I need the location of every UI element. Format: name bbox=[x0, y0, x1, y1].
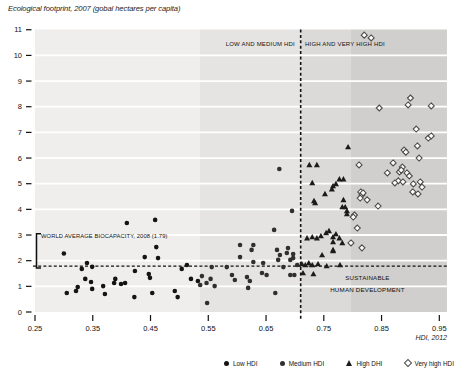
point-medium-hdi bbox=[260, 271, 265, 276]
point-medium-hdi bbox=[275, 248, 280, 253]
triangle-icon bbox=[346, 360, 352, 366]
point-medium-hdi bbox=[248, 279, 253, 284]
point-low-hdi bbox=[90, 265, 95, 270]
point-low-hdi bbox=[132, 295, 137, 300]
point-medium-hdi bbox=[273, 291, 278, 296]
x-tick-label: 0.65 bbox=[259, 324, 274, 333]
point-low-hdi bbox=[189, 277, 194, 282]
point-medium-hdi bbox=[238, 243, 243, 248]
point-low-hdi bbox=[146, 272, 151, 277]
point-low-hdi bbox=[175, 295, 180, 300]
y-tick-label: 3 bbox=[18, 231, 22, 240]
high-hdi-band bbox=[301, 30, 350, 313]
point-medium-hdi bbox=[212, 284, 217, 289]
point-medium-hdi bbox=[291, 256, 296, 261]
region-label-high-very-high: HIGH AND VERY HIGH HDI bbox=[305, 41, 385, 47]
sustainable-line2: HUMAN DEVELOPMENT bbox=[330, 286, 405, 293]
x-tick-label: 0.95 bbox=[432, 324, 447, 333]
legend-item-low-hdi: Low HDI bbox=[224, 360, 258, 367]
point-low-hdi bbox=[89, 280, 94, 285]
point-low-hdi bbox=[83, 277, 88, 282]
region-label-low-medium: LOW AND MEDIUM HDI bbox=[226, 41, 295, 47]
point-low-hdi bbox=[156, 256, 161, 261]
point-medium-hdi bbox=[205, 301, 210, 306]
point-low-hdi bbox=[153, 218, 158, 223]
point-low-hdi bbox=[85, 261, 90, 266]
x-tick-label: 0.25 bbox=[28, 324, 43, 333]
point-low-hdi bbox=[142, 255, 147, 260]
point-low-hdi bbox=[125, 221, 130, 226]
point-low-hdi bbox=[62, 251, 67, 256]
point-medium-hdi bbox=[238, 255, 243, 260]
scatter-plot-canvas: 0.250.350.450.550.650.750.850.9501234567… bbox=[0, 0, 458, 378]
point-medium-hdi bbox=[278, 253, 283, 258]
legend-item-high-dhi: High DHI bbox=[346, 360, 382, 367]
point-medium-hdi bbox=[251, 243, 256, 248]
y-tick-label: 10 bbox=[14, 51, 22, 60]
point-medium-hdi bbox=[261, 261, 266, 266]
point-low-hdi bbox=[185, 263, 190, 268]
point-medium-hdi bbox=[209, 265, 214, 270]
point-medium-hdi bbox=[246, 286, 251, 291]
diamond-open-icon bbox=[403, 359, 411, 367]
y-tick-label: 6 bbox=[18, 154, 22, 163]
point-low-hdi bbox=[79, 267, 84, 272]
legend-label: Low HDI bbox=[233, 360, 258, 367]
ecological-footprint-chart: 0.250.350.450.550.650.750.850.9501234567… bbox=[0, 0, 458, 378]
y-tick-label: 9 bbox=[18, 77, 22, 86]
x-axis-title: HDI, 2012 bbox=[415, 334, 447, 341]
point-low-hdi bbox=[101, 284, 106, 289]
x-tick-label: 0.85 bbox=[374, 324, 389, 333]
legend-item-medium-hdi: Medium HDI bbox=[280, 360, 325, 367]
point-medium-hdi bbox=[277, 167, 282, 172]
point-low-hdi bbox=[123, 281, 128, 286]
medium-hdi-band bbox=[200, 30, 302, 313]
x-tick-label: 0.55 bbox=[201, 324, 216, 333]
point-medium-hdi bbox=[233, 278, 238, 283]
point-low-hdi bbox=[75, 285, 80, 290]
chart-legend: Low HDIMedium HDIHigh DHIVery high HDI bbox=[224, 355, 454, 371]
x-tick-label: 0.45 bbox=[143, 324, 158, 333]
point-low-hdi bbox=[150, 291, 155, 296]
point-medium-hdi bbox=[198, 283, 203, 288]
point-medium-hdi bbox=[251, 260, 256, 265]
point-medium-hdi bbox=[292, 273, 297, 278]
y-tick-label: 8 bbox=[18, 102, 22, 111]
legend-label: Very high HDI bbox=[415, 360, 454, 367]
point-low-hdi bbox=[103, 292, 108, 297]
point-low-hdi bbox=[119, 282, 124, 287]
point-low-hdi bbox=[172, 289, 177, 294]
point-low-hdi bbox=[133, 269, 138, 274]
y-tick-label: 2 bbox=[18, 256, 22, 265]
point-medium-hdi bbox=[286, 246, 291, 251]
point-medium-hdi bbox=[291, 252, 296, 257]
chart-title: Ecological footprint, 2007 (gobal hectar… bbox=[8, 4, 180, 13]
point-medium-hdi bbox=[208, 277, 213, 282]
world-biocapacity-label: WORLD AVERAGE BIOCAPACITY, 2008 (1.79) bbox=[41, 233, 168, 239]
sustainable-development-label: SUSTAINABLEHUMAN DEVELOPMENT bbox=[305, 272, 430, 295]
point-medium-hdi bbox=[272, 228, 277, 233]
circle-icon bbox=[280, 361, 285, 366]
y-tick-label: 11 bbox=[14, 25, 22, 34]
point-medium-hdi bbox=[281, 265, 286, 270]
point-medium-hdi bbox=[276, 258, 281, 263]
point-medium-hdi bbox=[295, 263, 300, 268]
legend-label: Medium HDI bbox=[289, 360, 325, 367]
point-medium-hdi bbox=[230, 273, 235, 278]
x-tick-label: 0.35 bbox=[85, 324, 100, 333]
point-low-hdi bbox=[196, 279, 201, 284]
point-medium-hdi bbox=[200, 274, 205, 279]
point-medium-hdi bbox=[285, 251, 290, 256]
point-low-hdi bbox=[90, 287, 95, 292]
y-tick-label: 5 bbox=[18, 179, 22, 188]
legend-label: High DHI bbox=[356, 360, 382, 367]
point-low-hdi bbox=[179, 267, 184, 272]
circle-icon bbox=[224, 361, 229, 366]
point-medium-hdi bbox=[249, 248, 254, 253]
low-hdi-band bbox=[35, 30, 200, 313]
point-medium-hdi bbox=[224, 265, 229, 270]
legend-item-very-high-hdi: Very high HDI bbox=[405, 360, 454, 367]
point-medium-hdi bbox=[290, 209, 295, 214]
point-medium-hdi bbox=[245, 275, 250, 280]
x-tick-label: 0.75 bbox=[316, 324, 331, 333]
